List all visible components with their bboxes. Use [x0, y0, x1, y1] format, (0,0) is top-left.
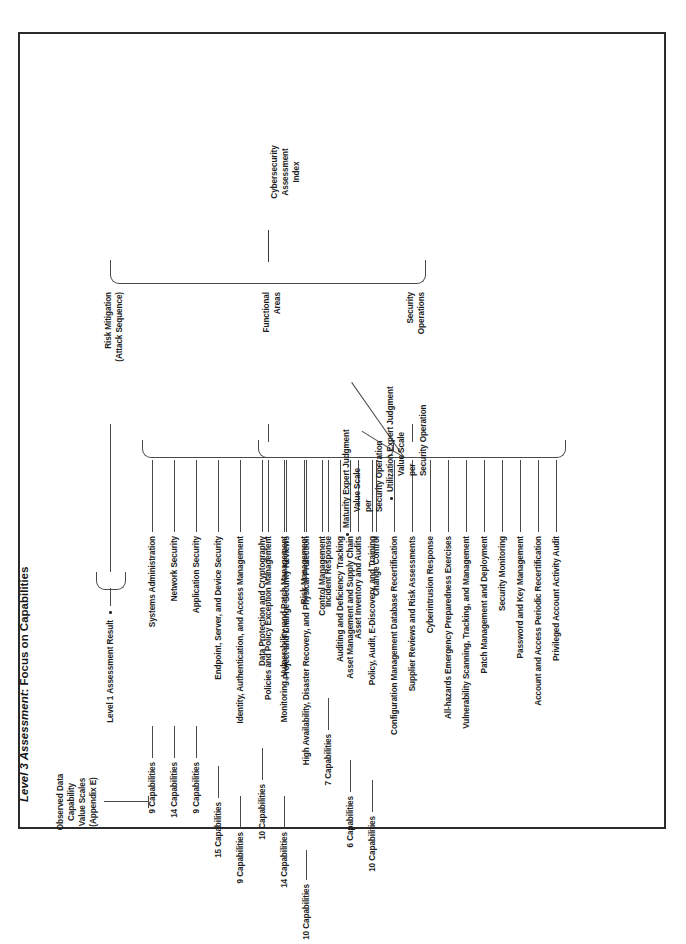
utilization-note-line-3: per: [408, 464, 419, 476]
utilization-note-line-4: Security Operation: [419, 405, 430, 476]
observed-data-note-line-4: (Appendix E): [89, 742, 100, 862]
observed-data-note-line-3: Value Scales: [78, 742, 89, 862]
maturity-note-line-3: per: [364, 500, 375, 512]
security-operations-label-line-1: Security: [406, 292, 417, 422]
risk-mitigation-connector: [110, 424, 111, 572]
security-operation-name: Supplier Reviews and Risk Assessments: [408, 536, 419, 752]
security-operation-name: Password and Key Management: [516, 536, 527, 726]
security-operation-name: Vulnerability Scanning, Tracking, and Ma…: [462, 536, 473, 806]
risk-mitigation-leaf-label: Level 1 Assessment Result: [106, 620, 117, 762]
security-operation-name: Change Control: [372, 536, 383, 646]
maturity-note-line-1: Maturity Expert Judgment: [342, 429, 353, 528]
functional-area-name: Endpoint, Server, and Device Security: [214, 536, 225, 762]
maturity-note-rest: Expert Judgment: [342, 429, 351, 497]
security-operation-name: Security Monitoring: [498, 536, 509, 666]
functional-area-name: Systems Administration: [148, 536, 159, 722]
functional-area-count: 9 Capabilities: [236, 832, 247, 918]
security-operation-name: All-hazards Emergency Preparedness Exerc…: [444, 536, 455, 788]
functional-area-count: 10 Capabilities: [258, 784, 269, 874]
functional-area-count: 10 Capabilities: [368, 816, 379, 906]
utilization-note-rest: Expert Judgment: [386, 386, 395, 454]
functional-area-count: 7 Capabilities: [324, 734, 335, 820]
maturity-note-keyword: Maturity: [342, 497, 351, 528]
root-label-line-3: Index: [292, 112, 303, 232]
risk-mitigation-leaf-bullet: [109, 611, 112, 614]
functional-area-count: 14 Capabilities: [280, 832, 291, 922]
functional-area-count: 15 Capabilities: [214, 802, 225, 888]
security-operation-name: Asset Inventory and Audits: [354, 536, 365, 696]
utilization-note-line-2: Value Scale: [397, 432, 408, 476]
root-label-line-1: Cybersecurity: [270, 112, 281, 232]
root-label-line-2: Assessment: [281, 112, 292, 232]
maturity-note-line-4: Security Operation: [375, 441, 386, 512]
risk-mitigation-label-line-2: (Attack Sequence): [115, 292, 126, 422]
functional-area-name: Network Security: [170, 536, 181, 722]
utilization-note-line-1: Utilization Expert Judgment: [386, 386, 397, 492]
functional-area-name: Application Security: [192, 536, 203, 722]
security-operation-name: Cyberintrusion Response: [426, 536, 437, 676]
security-operation-name: Configuration Management Database Recert…: [390, 536, 401, 820]
maturity-note-line-2: Value Scale: [353, 468, 364, 512]
risk-mitigation-leaf-bracket: [96, 572, 126, 590]
security-operation-name: Project and Change Security Reviews: [282, 536, 293, 744]
security-operation-name: Patch Management and Deployment: [480, 536, 491, 742]
risk-mitigation-label-line-1: Risk Mitigation: [104, 292, 115, 422]
maturity-note-bullet: [346, 533, 349, 536]
functional-areas-label-line-2: Areas: [273, 292, 284, 422]
risk-mitigation-leaf-stub: [110, 588, 111, 606]
observed-data-note-line-1: Observed Data: [56, 742, 67, 862]
root-bracket: [110, 260, 426, 284]
functional-area-count: 9 Capabilities: [148, 762, 159, 852]
observed-data-pointer-stem: [104, 801, 148, 802]
security-operations-label-line-2: Operations: [417, 292, 428, 422]
functional-area-name: Identity, Authentication, and Access Man…: [236, 536, 247, 792]
security-operation-name: Risk Management: [300, 536, 311, 666]
security-operation-name: Policies and Policy Exception Management: [264, 536, 275, 774]
functional-area-count: 6 Capabilities: [346, 796, 357, 882]
page-title-italic: Level 3 Assessment: [18, 692, 30, 802]
security-operation-name: Privileged Account Activity Audit: [552, 536, 563, 726]
observed-data-note-line-2: Capability: [67, 742, 78, 862]
security-operations-bracket: [258, 440, 566, 458]
utilization-note-bullet: [390, 497, 393, 500]
security-operation-name: Account and Access Periodic Recertificat…: [534, 536, 545, 784]
utilization-note-keyword: Utilization: [386, 454, 395, 492]
security-operation-name: Control Management: [318, 536, 329, 676]
functional-area-count: 10 Capabilities: [302, 884, 313, 944]
functional-area-count: 9 Capabilities: [192, 762, 203, 852]
page-title: Level 3 Assessment: Focus on Capabilitie…: [18, 567, 30, 802]
root-connector: [268, 230, 269, 262]
functional-areas-label-line-1: Functional: [262, 292, 273, 422]
security-operation-name: Auditing and Deficiency Tracking: [336, 536, 347, 716]
observed-data-pointer-tick: [148, 796, 149, 808]
page-title-rest: : Focus on Capabilities: [18, 567, 30, 693]
functional-area-count: 14 Capabilities: [170, 762, 181, 852]
